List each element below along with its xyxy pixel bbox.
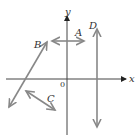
line-d-label: D [88,20,97,31]
line-c-label: C [47,93,55,104]
x-axis-label: x [129,73,135,84]
line-a-label: A [74,27,82,38]
coordinate-diagram: x y 0 A B C D [0,0,140,139]
line-b [9,42,47,107]
line-b-label: B [33,39,41,50]
y-axis-label: y [64,6,71,17]
origin-label: 0 [60,80,65,89]
